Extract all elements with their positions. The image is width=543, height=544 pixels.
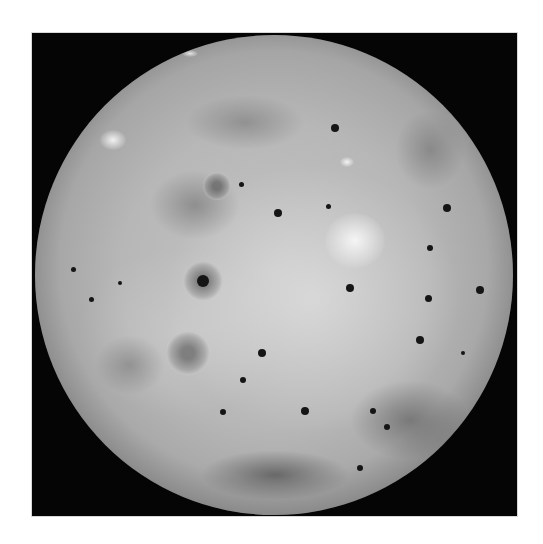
limb-shading xyxy=(35,35,513,515)
image-frame xyxy=(32,33,517,516)
moon-disk xyxy=(35,35,513,515)
